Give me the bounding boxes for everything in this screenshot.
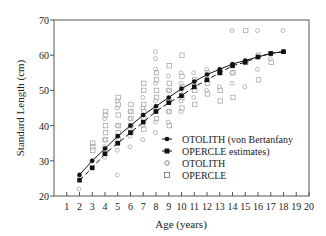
- otolith-raw-point: [154, 57, 158, 61]
- x-tick-label: 8: [154, 201, 159, 212]
- otolith-fit-marker: [90, 159, 95, 164]
- legend-item-opercle-fit: OPERCLE estimates): [162, 146, 270, 158]
- y-axis-ticks: 203040506070: [39, 15, 54, 202]
- opercle-raw-point: [231, 95, 235, 99]
- opercle-fit-marker: [77, 178, 82, 183]
- otolith-fit-marker: [128, 123, 133, 128]
- otolith-fit-marker: [103, 146, 108, 151]
- otolith-raw-point: [281, 29, 285, 33]
- otolith-raw-point: [256, 67, 260, 71]
- opercle-raw-point: [116, 113, 120, 117]
- otolith-fit-marker: [192, 79, 197, 84]
- y-tick-label: 40: [39, 121, 49, 132]
- otolith-fit-marker: [154, 104, 159, 109]
- otolith-raw-point: [243, 85, 247, 89]
- growth-chart: 1234567891011121314151617181920 20304050…: [0, 0, 326, 236]
- y-tick-label: 60: [39, 50, 49, 61]
- otolith-raw-point: [128, 145, 132, 149]
- x-axis-label: Age (years): [155, 218, 207, 231]
- legend-label: OPERCLE: [182, 170, 226, 181]
- opercle-fit-marker: [141, 120, 146, 125]
- otolith-raw-point: [154, 131, 158, 135]
- otolith-raw-point: [230, 29, 234, 33]
- x-tick-label: 11: [189, 201, 199, 212]
- opercle-fit-marker: [154, 109, 159, 114]
- y-tick-label: 50: [39, 85, 49, 96]
- x-tick-label: 3: [90, 201, 95, 212]
- opercle-raw-point: [129, 102, 133, 106]
- otolith-raw-point: [115, 148, 119, 152]
- otolith-raw-point: [141, 95, 145, 99]
- opercle-raw-point: [256, 78, 260, 82]
- opercle-raw-point: [154, 88, 158, 92]
- x-axis-ticks: 1234567891011121314151617181920: [64, 192, 314, 212]
- x-tick-label: 19: [291, 201, 301, 212]
- legend-label: OTOLITH: [182, 158, 225, 169]
- x-tick-label: 10: [177, 201, 187, 212]
- otolith-raw-point: [256, 29, 260, 33]
- legend-item-otolith-raw: OTOLITH: [165, 158, 225, 169]
- x-tick-label: 16: [253, 201, 263, 212]
- opercle-raw-point: [142, 88, 146, 92]
- otolith-raw-point: [141, 138, 145, 142]
- otolith-raw-point: [230, 81, 234, 85]
- legend-item-otolith-fit: OTOLITH (von Bertanfany: [162, 134, 293, 146]
- opercle-raw-point: [167, 81, 171, 85]
- y-tick-label: 30: [39, 156, 49, 167]
- opercle-fit-marker: [217, 71, 222, 76]
- x-tick-label: 20: [304, 201, 314, 212]
- x-tick-label: 18: [279, 201, 289, 212]
- x-tick-label: 4: [103, 201, 108, 212]
- x-tick-label: 5: [115, 201, 120, 212]
- opercle-fit-marker: [115, 141, 120, 146]
- otolith-fit-marker: [115, 134, 120, 139]
- x-tick-label: 7: [141, 201, 146, 212]
- x-tick-label: 2: [77, 201, 82, 212]
- opercle-fit-marker: [166, 100, 171, 105]
- otolith-raw-point: [154, 50, 158, 54]
- opercle-raw-point: [167, 64, 171, 68]
- otolith-raw-point: [115, 173, 119, 177]
- y-axis-label: Standard Length (cm): [14, 59, 27, 156]
- opercle-raw-point: [193, 102, 197, 106]
- opercle-fit-marker: [103, 151, 108, 156]
- opercle-fit-marker: [281, 49, 286, 54]
- x-tick-label: 1: [64, 201, 69, 212]
- legend: OTOLITH (von Bertanfany OPERCLE estimate…: [162, 134, 293, 181]
- otolith-fit-marker: [77, 173, 82, 178]
- legend-label: OTOLITH (von Bertanfany: [182, 134, 293, 146]
- opercle-fit-marker: [268, 51, 273, 56]
- y-tick-label: 70: [39, 15, 49, 26]
- otolith-fit-marker: [205, 72, 210, 77]
- opercle-fit-marker: [192, 85, 197, 90]
- opercle-raw-point: [103, 123, 107, 127]
- opercle-fit-marker: [205, 78, 210, 83]
- x-tick-label: 9: [166, 201, 171, 212]
- opercle-fit-marker: [179, 93, 184, 98]
- otolith-raw-point: [192, 71, 196, 75]
- otolith-raw-point: [166, 74, 170, 78]
- otolith-fit-marker: [141, 113, 146, 118]
- x-tick-label: 13: [215, 201, 225, 212]
- legend-item-opercle-raw: OPERCLE: [165, 170, 227, 181]
- x-tick-label: 12: [202, 201, 212, 212]
- opercle-fit-marker: [256, 55, 261, 60]
- opercle-raw-point: [103, 130, 107, 134]
- otolith-fit-marker: [179, 86, 184, 91]
- x-tick-label: 6: [128, 201, 133, 212]
- opercle-fit-marker: [243, 60, 248, 65]
- opercle-raw-point: [244, 28, 248, 32]
- otolith-raw-point: [77, 187, 81, 191]
- x-tick-label: 14: [228, 201, 238, 212]
- x-tick-label: 17: [266, 201, 276, 212]
- opercle-fit-marker: [128, 130, 133, 135]
- opercle-raw-point: [180, 53, 184, 57]
- raw-data-points: [77, 28, 285, 191]
- y-tick-label: 20: [39, 191, 49, 202]
- opercle-raw-point: [218, 99, 222, 103]
- opercle-fit-marker: [230, 63, 235, 68]
- opercle-raw-point: [142, 81, 146, 85]
- x-tick-label: 15: [240, 201, 250, 212]
- otolith-fit-marker: [166, 95, 171, 100]
- legend-label: OPERCLE estimates): [182, 146, 270, 158]
